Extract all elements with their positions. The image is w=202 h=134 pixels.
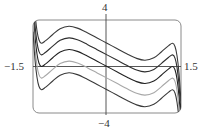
y-max-label: 4 (102, 2, 108, 13)
y-min-label: −4 (98, 118, 110, 129)
curve-series-0 (33, 0, 181, 101)
plot-area (0, 0, 202, 134)
curve-series-1 (33, 0, 181, 113)
x-min-label: −1.5 (4, 61, 24, 72)
x-max-label: 1.5 (184, 61, 198, 72)
